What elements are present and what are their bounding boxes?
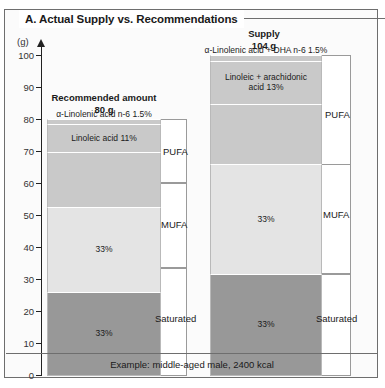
left-bracket-pufa-label: PUFA: [163, 146, 188, 157]
y-tick-label-90: 90: [8, 82, 34, 93]
y-tick-mark-30: [36, 279, 42, 280]
chart-panel: A. Actual Supply vs. Recommendations (g)…: [4, 9, 378, 378]
y-tick-label-60: 60: [8, 178, 34, 189]
right-bracket-saturated-tick: [350, 300, 351, 314]
page-title: A. Actual Supply vs. Recommendations: [19, 10, 244, 28]
y-tick-label-0: 0: [8, 370, 34, 381]
y-tick-label-30: 30: [8, 274, 34, 285]
y-tick-label-50: 50: [8, 210, 34, 221]
left-bar-caption-line1: Recommended amount: [51, 92, 156, 103]
y-tick-mark-90: [36, 87, 42, 88]
y-tick-mark-20: [36, 311, 42, 312]
y-tick-label-100: 100: [8, 50, 34, 61]
right-bracket-saturated-label: Saturated: [316, 313, 357, 324]
y-tick-mark-0: [36, 375, 42, 376]
y-tick-mark-80: [36, 119, 42, 120]
left-bracket-saturated-tick: [186, 300, 187, 314]
right-segment-linoleic-arachidonic: Linoleic + arachidonic acid 13%: [210, 61, 322, 104]
bar-supply: α-Linolenic acid + DHA n-6 1.5% Linoleic…: [210, 55, 322, 376]
y-axis-arrow-icon: [37, 39, 45, 47]
right-segment-mufa: 33%: [210, 164, 322, 274]
right-bracket-pufa-tick: [350, 96, 351, 110]
left-segment-pufa-remainder: [47, 152, 161, 207]
y-tick-mark-100: [36, 55, 42, 56]
left-segment-linoleic-acid-label: Linoleic acid 11%: [71, 134, 137, 144]
y-tick-label-40: 40: [8, 242, 34, 253]
right-segment-pufa-remainder: [210, 104, 322, 164]
bar-recommended-amount: α-Linolenic acid n-6 1.5% Linoleic acid …: [47, 119, 161, 376]
left-segment-mufa: 33%: [47, 207, 161, 292]
right-segment-alpha-linolenic-dha-label: α-Linolenic acid + DHA n-6 1.5%: [205, 46, 328, 56]
y-tick-label-70: 70: [8, 146, 34, 157]
plot-area: (g) 100 90 80 70 60 50 40 30 20 10 0 Rec…: [5, 10, 379, 377]
left-bracket-mufa-label: MUFA: [161, 219, 187, 230]
right-bracket-mufa-label: MUFA: [323, 209, 349, 220]
left-segment-alpha-linolenic-label: α-Linolenic acid n-6 1.5%: [56, 110, 152, 120]
right-segment-saturated-label: 33%: [257, 320, 274, 330]
left-bracket-mufa-tick: [186, 206, 187, 220]
footer-divider: [6, 353, 378, 354]
y-tick-label-80: 80: [8, 114, 34, 125]
right-bracket-mufa-tick: [350, 196, 351, 210]
footer-note: Example: middle-aged male, 2400 kcal: [5, 359, 379, 370]
y-tick-label-10: 10: [8, 338, 34, 349]
title-rule: [242, 18, 385, 19]
right-bar-caption-line1: Supply: [248, 28, 280, 39]
left-segment-mufa-label: 33%: [95, 245, 112, 255]
y-tick-mark-50: [36, 215, 42, 216]
y-tick-mark-10: [36, 343, 42, 344]
y-tick-mark-70: [36, 151, 42, 152]
y-axis-unit-label: (g): [17, 36, 29, 47]
y-tick-label-20: 20: [8, 306, 34, 317]
right-segment-mufa-label: 33%: [257, 215, 274, 225]
left-segment-saturated-label: 33%: [95, 329, 112, 339]
left-bracket-saturated-label: Saturated: [155, 313, 196, 324]
right-bracket-pufa-label: PUFA: [325, 109, 350, 120]
right-segment-linoleic-arachidonic-label: Linoleic + arachidonic acid 13%: [225, 73, 307, 93]
left-segment-linoleic-acid: Linoleic acid 11%: [47, 124, 161, 152]
y-tick-mark-60: [36, 183, 42, 184]
y-tick-mark-40: [36, 247, 42, 248]
